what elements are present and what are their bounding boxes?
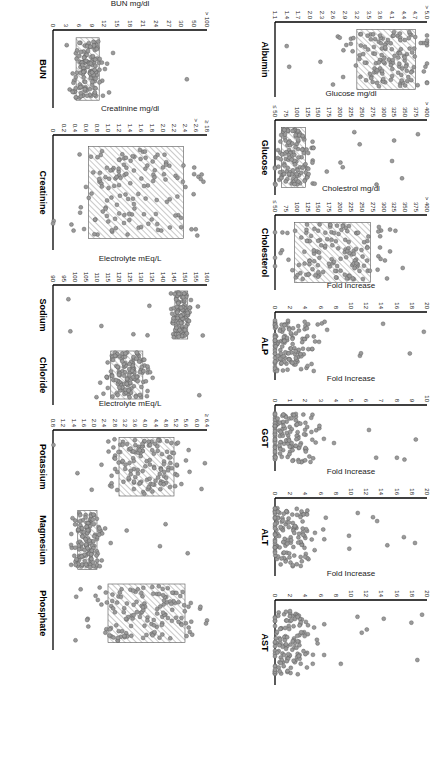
svg-text:2.4: 2.4 [182,124,188,133]
svg-text:Electrolyte mEq/L: Electrolyte mEq/L [99,254,162,263]
svg-text:1.7: 1.7 [295,11,301,20]
svg-text:27: 27 [166,20,172,27]
panel-ast: 20181614121086420Fold IncreaseAST [260,569,430,685]
svg-text:2.0: 2.0 [160,124,166,133]
svg-text:145: 145 [171,272,177,283]
svg-text:1.4: 1.4 [71,419,77,428]
svg-text:200: 200 [337,202,343,213]
svg-text:130: 130 [138,272,144,283]
svg-text:6.0: 6.0 [194,419,200,428]
svg-text:1.4: 1.4 [284,11,290,20]
svg-text:325: 325 [391,202,397,213]
svg-text:30: 30 [178,20,184,27]
panel-cholesterol: > 40037535032530027525022520017515012510… [260,184,430,290]
svg-text:≤ 50: ≤ 50 [272,105,278,117]
svg-text:21: 21 [140,20,146,27]
svg-text:1: 1 [287,399,293,403]
svg-text:20: 20 [424,590,430,597]
svg-text:2.2: 2.2 [171,124,177,133]
svg-text:4.0: 4.0 [142,419,148,428]
svg-text:5: 5 [348,399,354,403]
svg-text:Fold Increase: Fold Increase [327,281,376,290]
svg-text:Cholesterol: Cholesterol [260,228,270,278]
svg-text:Cholestrol mg/dl: Cholestrol mg/dl [322,184,380,193]
svg-text:2: 2 [287,492,293,496]
svg-text:1.6: 1.6 [81,419,87,428]
svg-text:18: 18 [409,590,415,597]
svg-text:20: 20 [424,302,430,309]
svg-text:9: 9 [89,24,95,28]
svg-text:5.6: 5.6 [183,419,189,428]
svg-text:1.4: 1.4 [127,124,133,133]
svg-text:2.6: 2.6 [330,11,336,20]
svg-text:≤ 50: ≤ 50 [272,200,278,212]
svg-text:2.0: 2.0 [307,11,313,20]
svg-text:≥ 18: ≥ 18 [204,120,210,132]
svg-text:125: 125 [305,202,311,213]
svg-text:4.4: 4.4 [153,419,159,428]
svg-text:18: 18 [127,20,133,27]
svg-text:0.6: 0.6 [83,124,89,133]
svg-text:6: 6 [318,492,324,496]
svg-text:0: 0 [272,306,278,310]
svg-text:1.2: 1.2 [116,124,122,133]
svg-text:3.2: 3.2 [354,11,360,20]
svg-text:1.8: 1.8 [149,124,155,133]
svg-text:150: 150 [315,202,321,213]
svg-text:0.4: 0.4 [72,124,78,133]
svg-text:100: 100 [294,202,300,213]
panel-ggt: 109876543210Fold IncreaseGGT [260,374,430,471]
panel-creatinine: ≥ 18> 2.62.42.22.01.81.61.41.21.00.80.60… [38,104,210,250]
svg-text:115: 115 [105,272,111,282]
svg-text:3.6: 3.6 [132,419,138,428]
svg-text:4: 4 [302,594,308,598]
svg-text:BUN mg/dl: BUN mg/dl [111,0,150,8]
svg-text:3.2: 3.2 [122,419,128,428]
svg-text:4.7: 4.7 [412,11,418,20]
svg-text:0: 0 [272,399,278,403]
svg-text:120: 120 [116,272,122,283]
svg-text:105: 105 [83,272,89,283]
panel-sodium-chloride: 1601551501451401351301251201151101051009… [38,254,210,405]
svg-text:125: 125 [305,107,311,118]
svg-text:8: 8 [333,594,339,598]
svg-text:150: 150 [182,272,188,283]
svg-text:> 5.0: > 5.0 [424,5,430,19]
svg-text:16: 16 [394,488,400,495]
svg-text:2.8: 2.8 [112,419,118,428]
svg-text:0: 0 [50,129,56,133]
svg-text:275: 275 [370,202,376,213]
svg-text:ALT: ALT [260,529,270,546]
svg-text:155: 155 [193,272,199,283]
panel-potassium-magnesium-phosphate: ≥ 6.46.05.65.24.84.44.03.63.22.82.42.01.… [38,399,210,650]
svg-text:350: 350 [402,107,408,118]
svg-text:140: 140 [160,272,166,283]
svg-text:Fold Increase: Fold Increase [327,569,376,578]
svg-text:200: 200 [337,107,343,118]
svg-text:2.9: 2.9 [342,11,348,20]
svg-text:6: 6 [363,399,369,403]
svg-text:95: 95 [61,275,67,282]
svg-text:75: 75 [283,110,289,117]
svg-text:12: 12 [363,590,369,597]
svg-text:6: 6 [76,24,82,28]
panel-glucose: > 40037535032530027525022520017515012510… [260,89,430,195]
svg-text:AST: AST [260,634,270,653]
svg-text:> 400: > 400 [424,102,430,118]
svg-text:150: 150 [315,107,321,118]
svg-text:2.4: 2.4 [101,419,107,428]
figure-canvas: > 5.04.74.44.13.83.53.22.92.62.32.01.71.… [0,0,445,757]
svg-text:Creatinine mg/dl: Creatinine mg/dl [101,104,159,113]
svg-text:110: 110 [94,272,100,282]
svg-text:250: 250 [359,202,365,213]
svg-text:90: 90 [50,275,56,282]
svg-text:10: 10 [348,302,354,309]
svg-text:2.3: 2.3 [319,11,325,20]
svg-text:6: 6 [318,594,324,598]
svg-text:250: 250 [359,107,365,118]
panel-alt: 20181614121086420Fold IncreaseALT [260,467,430,576]
svg-text:16: 16 [394,590,400,597]
svg-text:2.0: 2.0 [91,419,97,428]
svg-text:14: 14 [378,590,384,597]
svg-text:0.8: 0.8 [94,124,100,133]
